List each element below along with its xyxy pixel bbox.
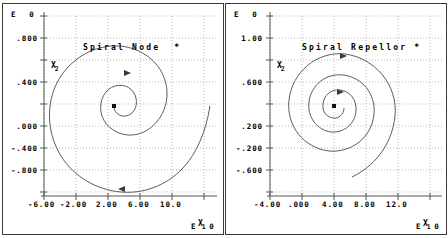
plot-title: Spiral Repellor * [302, 44, 421, 52]
y-axis-title-subscript: 2 [55, 65, 59, 73]
y-axis-title: X2 [22, 54, 60, 78]
x-tick-label-3: 6.00 [128, 201, 150, 209]
y-tick-label-3: -.200 [230, 145, 263, 153]
x-tick-label-3: 8.00 [354, 201, 376, 209]
exponent-label-top-left: E 0 [234, 11, 258, 19]
y-tick-label-1: .400 [5, 79, 38, 87]
y-tick-label-0: .800 [5, 35, 38, 43]
y-tick-label-3: -.400 [5, 145, 38, 153]
panel-spiral-node: E 0 .800 .400 .000 -.400 -.800 X2 Spiral… [2, 3, 224, 235]
exponent-label-bottom-right: E 0 [416, 223, 440, 231]
equilibrium-marker [112, 104, 116, 108]
y-axis-title: X2 [248, 54, 286, 78]
y-tick-label-0: 1.00 [230, 35, 263, 43]
y-axis-title-subscript: 2 [281, 65, 285, 73]
y-tick-label-2: .000 [5, 123, 38, 131]
x-tick-label-2: 4.00 [322, 201, 344, 209]
y-tick-label-1: .600 [230, 79, 263, 87]
y-tick-label-2: .200 [230, 123, 263, 131]
x-tick-label-1: .000 [288, 201, 310, 209]
plot-title: Spiral Node * [83, 44, 181, 52]
y-tick-label-4: -.600 [230, 167, 263, 175]
equilibrium-marker [332, 104, 336, 108]
figure-root: E 0 .800 .400 .000 -.400 -.800 X2 Spiral… [0, 0, 448, 238]
y-tick-label-4: -.800 [5, 167, 38, 175]
x-tick-label-4: 12.0 [386, 201, 408, 209]
x-tick-label-1: -2.00 [60, 201, 87, 209]
x-tick-label-0: -4.00 [254, 201, 281, 209]
panel-spiral-repellor: E 0 1.00 .600 .200 -.200 -.600 X2 Spiral… [225, 3, 447, 235]
spiral-curve-outward [289, 54, 396, 177]
x-tick-label-4: 10.0 [160, 201, 182, 209]
flow-arrow-lower [118, 186, 125, 192]
exponent-label-bottom-right: E 0 [191, 223, 215, 231]
exponent-label-top-left: E 0 [11, 11, 35, 19]
x-tick-label-0: -6.00 [28, 201, 55, 209]
x-tick-label-2: 2.00 [96, 201, 118, 209]
flow-arrow-upper [124, 70, 131, 76]
